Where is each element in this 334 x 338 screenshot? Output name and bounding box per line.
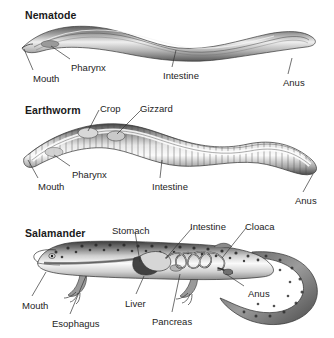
label-earthworm-crop: Crop [100, 104, 121, 114]
label-salamander-stomach: Stomach [112, 226, 150, 236]
label-salamander-mouth: Mouth [22, 301, 48, 311]
label-nematode-intestine: Intestine [163, 71, 199, 81]
label-earthworm-anus: Anus [295, 196, 317, 206]
label-salamander-liver: Liver [125, 299, 146, 309]
heading-salamander: Salamander [25, 228, 86, 239]
heading-nematode: Nematode [25, 10, 77, 21]
label-nematode-anus: Anus [283, 78, 305, 88]
label-earthworm-gizzard: Gizzard [140, 104, 173, 114]
label-salamander-pancreas: Pancreas [152, 317, 192, 327]
label-earthworm-pharynx: Pharynx [72, 170, 107, 180]
label-salamander-intestine: Intestine [190, 222, 226, 232]
label-salamander-cloaca: Cloaca [245, 222, 275, 232]
comparative-anatomy-figure: Nematode Earthworm Salamander Mouth Phar… [0, 0, 334, 338]
label-earthworm-intestine: Intestine [152, 182, 188, 192]
label-salamander-anus: Anus [248, 289, 270, 299]
heading-earthworm: Earthworm [25, 105, 81, 116]
label-salamander-esophagus: Esophagus [52, 319, 100, 329]
label-nematode-mouth: Mouth [33, 74, 59, 84]
label-earthworm-mouth: Mouth [38, 182, 64, 192]
label-nematode-pharynx: Pharynx [71, 63, 106, 73]
